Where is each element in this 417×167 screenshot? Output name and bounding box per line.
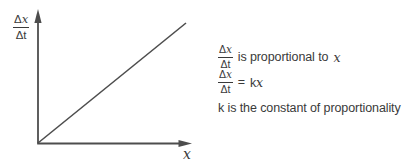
y-axis-label: Δx Δt xyxy=(13,13,29,41)
equals-sign: = xyxy=(238,75,245,89)
equation-kx: kx xyxy=(250,75,263,90)
variable-x: x xyxy=(333,50,340,65)
annotation-text: is proportional to xyxy=(238,50,329,64)
fraction-numerator: Δx xyxy=(13,13,29,28)
annotation-line-3: k is the constant of proportionality xyxy=(218,101,401,115)
proportional-line xyxy=(38,23,186,143)
annotation-line-2: Δx Δt = kx xyxy=(218,69,263,96)
proportionality-figure: Δx Δt x Δx Δt is proportional to x Δx Δt… xyxy=(0,0,417,167)
y-axis-arrowhead-icon xyxy=(34,9,41,23)
fraction-numerator: Δx xyxy=(218,69,233,83)
annotation-line-1: Δx Δt is proportional to x xyxy=(218,44,340,71)
y-axis-fraction: Δx Δt xyxy=(13,13,29,41)
line-graph xyxy=(0,0,210,167)
fraction-dx-dt: Δx Δt xyxy=(218,44,233,71)
fraction-dx-dt: Δx Δt xyxy=(218,69,233,96)
fraction-denominator: Δt xyxy=(218,83,233,96)
fraction-denominator: Δt xyxy=(13,28,29,42)
x-axis-label: x xyxy=(183,146,191,162)
fraction-numerator: Δx xyxy=(218,44,233,58)
